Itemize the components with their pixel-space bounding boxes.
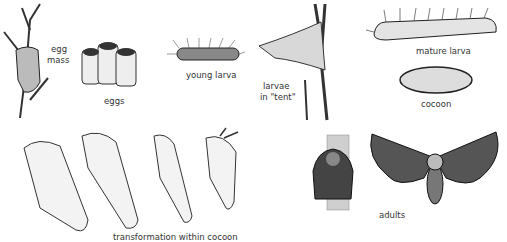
eggs-label: eggs (104, 96, 124, 106)
cocoon-icon (398, 65, 474, 95)
larvae-tent-label-line1: larvae (263, 81, 290, 91)
mature-larva-label: mature larva (416, 46, 471, 56)
eggs-cluster-icon (78, 36, 146, 92)
adults-label: adults (379, 210, 405, 220)
young-larva-label: young larva (186, 70, 236, 80)
transformation-illustration (20, 128, 260, 240)
spread-moth-icon (368, 128, 502, 208)
larvae-tent-label-line2: in "tent" (260, 92, 296, 102)
adult-moth-resting-illustration (303, 135, 361, 210)
cocoon-label: cocoon (421, 99, 451, 109)
cocoon-illustration (398, 65, 474, 95)
young-larva-illustration (165, 38, 245, 66)
eggs-illustration (78, 36, 146, 92)
young-larva-icon (165, 38, 245, 66)
egg-mass-label-line2: mass (47, 55, 69, 65)
adult-moth-spread-illustration (368, 128, 502, 208)
mature-larva-illustration (366, 8, 502, 48)
tent-on-branch-icon (255, 0, 345, 120)
egg-mass-label-line1: egg (51, 44, 67, 54)
pupa-stages-icon (20, 128, 260, 240)
transformation-label: transformation within cocoon (113, 232, 238, 242)
mature-larva-icon (366, 8, 502, 48)
resting-moth-icon (303, 135, 361, 210)
larvae-tent-illustration (255, 0, 345, 120)
